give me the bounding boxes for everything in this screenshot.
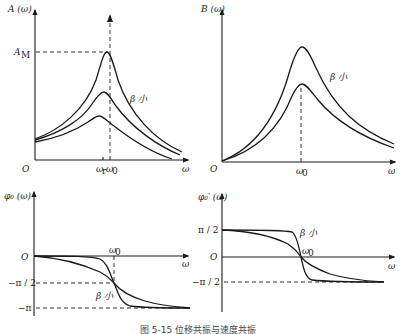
beta-annotation: β 小 (129, 94, 148, 104)
y-axis-label: φ₀′ (ω) (198, 192, 228, 202)
beta-annotation: β 小 (329, 72, 348, 82)
w0-sub: 0 (115, 247, 121, 257)
x-axis-label: ω (182, 164, 190, 174)
am-label-main: A (13, 47, 21, 57)
origin-label: O (22, 164, 30, 174)
am-label-sub: M (21, 50, 30, 60)
half-pi-label: π / 2 (198, 225, 218, 235)
curve-high-damping (35, 116, 172, 159)
x-axis-label: ω (388, 261, 396, 271)
phase-velocity-panel: φ₀′ (ω) π / 2 O ω 0 ω −π / 2 β 小 (192, 192, 396, 312)
w0-sub: 0 (308, 248, 314, 258)
curve-mid-damping (35, 92, 180, 155)
phase-displacement-panel: φ₀ (ω) O ω 0 ω −π / 2 −π β 小 (4, 191, 190, 316)
minus-half-pi-label: −π / 2 (192, 277, 220, 287)
x-axis-label: ω (182, 259, 190, 269)
minus-half-pi-label: −π / 2 (8, 278, 36, 288)
origin-label: O (21, 252, 29, 262)
w0-sub: 0 (112, 166, 118, 176)
figure-caption: 图 5-15 位移共振与速度共振 (140, 324, 256, 334)
curve-high-damping (222, 84, 394, 161)
y-axis-label: A (ω) (7, 4, 32, 14)
y-axis-label: B (ω) (200, 4, 225, 14)
origin-label: O (210, 164, 218, 174)
resonance-figure: A (ω) A M O ω r ω 0 ω β 小 B (ω) O ω 0 ω … (0, 0, 400, 334)
x-axis-label: ω (388, 166, 396, 176)
beta-annotation: β 小 (95, 291, 114, 301)
amplitude-panel: A (ω) A M O ω r ω 0 ω β 小 (7, 4, 190, 176)
origin-label: O (210, 252, 218, 262)
arrow-icon (107, 14, 113, 22)
w0-sub: 0 (302, 168, 308, 178)
curve-low-damping (222, 47, 394, 161)
y-axis-label: φ₀ (ω) (4, 191, 32, 201)
velocity-panel: B (ω) O ω 0 ω β 小 (200, 4, 396, 178)
minus-pi-label: −π (18, 303, 32, 313)
beta-annotation: β 小 (299, 228, 318, 238)
